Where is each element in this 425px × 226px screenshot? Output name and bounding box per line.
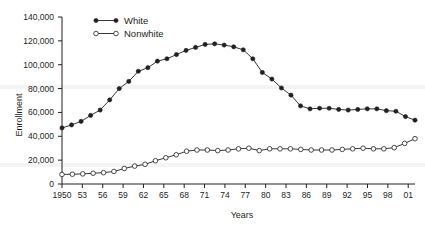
data-point-nonwhite: [215, 148, 220, 153]
data-point-nonwhite: [319, 148, 324, 153]
y-tick-label: 60,000: [28, 107, 54, 117]
data-point-nonwhite: [143, 162, 148, 167]
data-point-nonwhite: [153, 158, 158, 163]
x-tick-label: 65: [159, 190, 169, 200]
x-tick-label: 68: [179, 190, 189, 200]
data-point-nonwhite: [101, 170, 106, 175]
data-point-white: [279, 86, 283, 90]
data-point-nonwhite: [361, 146, 366, 151]
data-point-white: [356, 107, 360, 111]
data-point-white: [127, 79, 131, 83]
x-tick-label: 86: [302, 190, 312, 200]
data-point-white: [146, 66, 150, 70]
x-tick-label: 89: [322, 190, 332, 200]
x-axis-tickmarks: [62, 184, 408, 188]
data-point-nonwhite: [80, 172, 85, 177]
axes-lines: [58, 17, 415, 188]
data-point-nonwhite: [413, 136, 418, 141]
data-point-nonwhite: [112, 169, 117, 174]
x-tick-label: 01: [403, 190, 413, 200]
x-axis-tick-labels: 19505356596265687174778083868992959801: [53, 190, 414, 200]
y-tick-label: 80,000: [28, 84, 54, 94]
data-point-nonwhite: [402, 141, 407, 146]
data-point-white: [184, 48, 188, 52]
data-point-nonwhite: [298, 147, 303, 152]
data-point-nonwhite: [122, 166, 127, 171]
data-point-nonwhite: [257, 148, 262, 153]
data-point-nonwhite: [195, 148, 200, 153]
legend-label-white: White: [124, 15, 148, 26]
data-point-white: [60, 126, 64, 130]
data-point-nonwhite: [371, 147, 376, 152]
data-point-nonwhite: [267, 147, 272, 152]
data-point-white: [327, 106, 331, 110]
data-point-white: [403, 115, 407, 119]
data-point-nonwhite: [236, 147, 241, 152]
data-point-nonwhite: [205, 148, 210, 153]
legend-marker-nonwhite-end: [114, 31, 119, 36]
data-point-white: [136, 69, 140, 73]
y-tick-label: 40,000: [28, 131, 54, 141]
x-tick-label: 98: [383, 190, 393, 200]
data-series-group: [60, 42, 418, 177]
data-point-white: [213, 42, 217, 46]
data-point-nonwhite: [340, 147, 345, 152]
x-tick-label: 53: [78, 190, 88, 200]
data-point-nonwhite: [309, 148, 314, 153]
data-point-white: [298, 104, 302, 108]
data-point-nonwhite: [330, 148, 335, 153]
data-point-nonwhite: [60, 172, 65, 177]
data-point-white: [108, 98, 112, 102]
x-tick-label: 77: [241, 190, 251, 200]
data-point-white: [193, 45, 197, 49]
data-point-nonwhite: [288, 147, 293, 152]
data-point-nonwhite: [184, 149, 189, 154]
data-point-white: [308, 107, 312, 111]
data-point-nonwhite: [278, 147, 283, 152]
x-tick-label: 74: [220, 190, 230, 200]
data-point-white: [117, 86, 121, 90]
data-point-white: [394, 109, 398, 113]
y-tick-label: 0: [49, 179, 54, 189]
data-point-nonwhite: [91, 171, 96, 176]
data-point-white: [89, 113, 93, 117]
data-point-white: [79, 119, 83, 123]
x-tick-label: 71: [200, 190, 210, 200]
y-tick-label: 140,000: [23, 12, 54, 22]
chart-legend: White Nonwhite: [94, 15, 164, 39]
data-point-white: [203, 42, 207, 46]
data-point-white: [337, 107, 341, 111]
data-point-white: [251, 57, 255, 61]
legend-label-nonwhite: Nonwhite: [124, 28, 164, 39]
y-axis-tick-labels: 020,00040,00060,00080,000100,000120,0001…: [23, 12, 54, 189]
enrollment-line-chart-figure: 020,00040,00060,00080,000100,000120,0001…: [0, 0, 425, 226]
y-axis-title: Enrollment: [14, 93, 24, 137]
legend-marker-white-start: [94, 18, 98, 22]
data-point-nonwhite: [174, 152, 179, 157]
legend-marker-white-end: [114, 18, 118, 22]
data-point-white: [270, 77, 274, 81]
data-point-white: [165, 57, 169, 61]
y-axis-tickmarks: [58, 17, 62, 184]
data-point-nonwhite: [70, 172, 75, 177]
x-tick-label: 92: [342, 190, 352, 200]
data-point-nonwhite: [350, 147, 355, 152]
data-point-white: [241, 48, 245, 52]
data-point-white: [384, 109, 388, 113]
x-tick-label: 80: [261, 190, 271, 200]
y-tick-label: 20,000: [28, 155, 54, 165]
x-tick-label: 95: [363, 190, 373, 200]
data-point-nonwhite: [382, 147, 387, 152]
data-point-white: [260, 70, 264, 74]
data-point-nonwhite: [226, 148, 231, 153]
background-band-lower: [0, 163, 425, 167]
data-point-white: [413, 118, 417, 122]
data-point-white: [222, 43, 226, 47]
data-point-nonwhite: [164, 155, 169, 160]
y-tick-label: 120,000: [23, 36, 54, 46]
data-point-white: [98, 108, 102, 112]
background-band-upper: [0, 85, 425, 89]
data-point-white: [69, 123, 73, 127]
chart-canvas: 020,00040,00060,00080,000100,000120,0001…: [0, 0, 425, 226]
data-point-white: [155, 59, 159, 63]
